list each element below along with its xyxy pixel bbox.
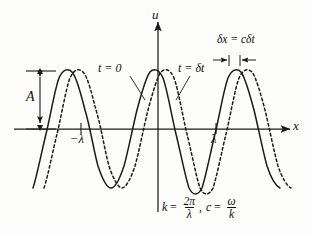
formula-separator: , (199, 200, 202, 215)
formula-c-numerator: ω (225, 195, 237, 207)
amplitude-label: A (26, 90, 35, 104)
formula-block: k = 2π λ , c = ω k (162, 195, 240, 220)
formula-k-equals: = (169, 200, 177, 215)
tick-label-positive-lambda: λ (211, 133, 216, 146)
label-leader-lines (130, 76, 190, 100)
formula-k-denominator: λ (185, 207, 194, 220)
tick-label-negative-lambda: −λ (70, 133, 84, 146)
wave-diagram-figure: u x A t = 0 t = δt δx = cδt −λ λ k = 2π … (0, 0, 312, 236)
formula-k-numerator: 2π (181, 195, 197, 207)
formula-k-symbol: k (162, 200, 167, 215)
formula-c-fraction: ω k (225, 195, 237, 220)
curve-label-tdt: t = δt (178, 62, 204, 74)
diagram-canvas (0, 0, 312, 236)
delta-x-label: δx = cδt (217, 34, 255, 46)
formula-k-fraction: 2π λ (181, 195, 197, 220)
curve-label-t0: t = 0 (98, 62, 121, 74)
axis-label-x: x (293, 119, 299, 132)
formula-c-denominator: k (227, 207, 236, 220)
formula-c-equals: = (213, 200, 221, 215)
delta-x-indicator (213, 55, 256, 66)
formula-c-symbol: c (206, 200, 211, 215)
axis-label-u: u (152, 8, 159, 21)
